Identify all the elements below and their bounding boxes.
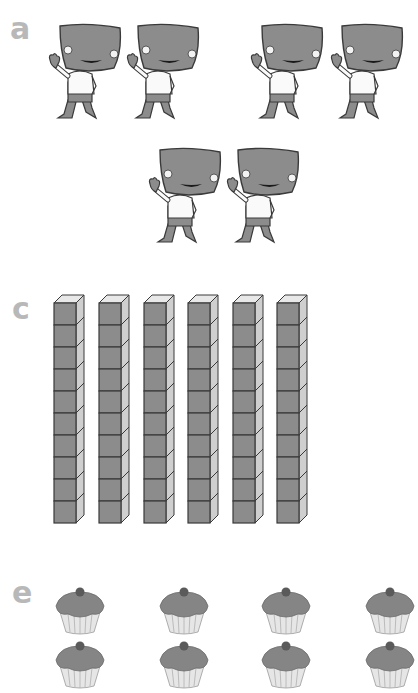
cupcake [362, 640, 418, 690]
cupcake [258, 586, 314, 636]
section-label-e: e [12, 578, 32, 608]
ten-rod [142, 294, 176, 526]
cupcake [258, 640, 314, 690]
cupcake [362, 586, 418, 636]
cupcake [156, 586, 212, 636]
cupcake [52, 586, 108, 636]
character-illustration [250, 22, 324, 122]
ten-rod [97, 294, 131, 526]
ten-rod [231, 294, 265, 526]
section-label-c: c [12, 294, 30, 324]
character-illustration [48, 22, 122, 122]
character-illustration [330, 22, 404, 122]
ten-rod [275, 294, 309, 526]
character-illustration [126, 22, 200, 122]
cupcake [156, 640, 212, 690]
section-label-a: a [10, 14, 30, 44]
cupcake [52, 640, 108, 690]
ten-rod [186, 294, 220, 526]
character-illustration [226, 146, 300, 246]
ten-rod [52, 294, 86, 526]
character-illustration [148, 146, 222, 246]
